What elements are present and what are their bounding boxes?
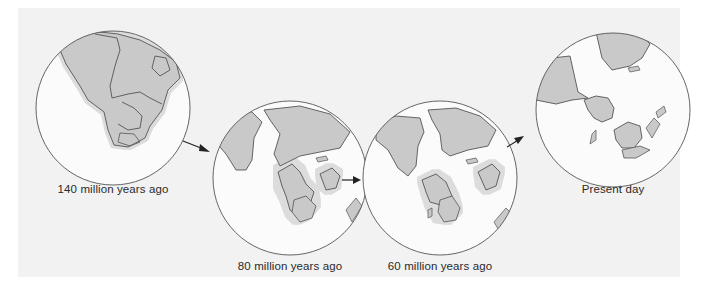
arrow-head-icon <box>199 144 210 152</box>
label-60-mya: 60 million years ago <box>388 260 492 272</box>
arrow-head-icon <box>514 136 524 144</box>
label-80-mya: 80 million years ago <box>238 260 342 272</box>
arrow-140-to-80 <box>183 141 210 152</box>
globe-140-mya <box>36 31 190 185</box>
arrow-60-to-present <box>507 136 524 147</box>
label-present-day: Present day <box>582 183 644 195</box>
globe-present-day <box>534 30 690 187</box>
label-140-mya: 140 million years ago <box>58 183 169 195</box>
globe-60-mya <box>363 101 517 255</box>
globe-80-mya <box>210 101 367 255</box>
continental-drift-diagram <box>0 0 703 293</box>
